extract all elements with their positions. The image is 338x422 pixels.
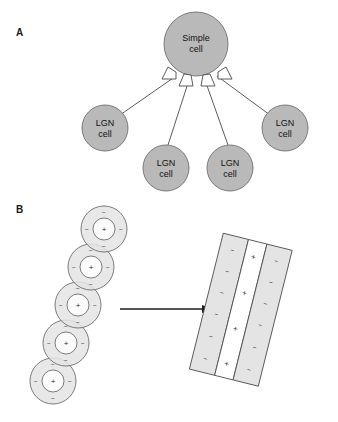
receptive-field-1: + − − − − [81, 206, 127, 252]
rf-4-surround-sign-e: − [81, 340, 85, 347]
rf-3-surround-sign-e: − [93, 302, 97, 309]
panel-a: A Simple cell LGN cell LGN [16, 12, 308, 191]
panel-b: B + − − − − + − − − − [16, 204, 292, 404]
lgn-cell-2-soma [143, 145, 189, 191]
rf-5-center-sign: + [51, 377, 56, 386]
lgn-cell-3-label-line1: LGN [221, 158, 240, 168]
rf-2-surround-sign-s: − [89, 281, 93, 288]
lgn-cell-3-soma [207, 145, 253, 191]
axon-group [120, 76, 270, 145]
axon-lgn-1 [120, 76, 176, 115]
lgn-cell-3-label-line2: cell [223, 169, 237, 179]
rf-1-surround-sign-e: − [119, 226, 123, 233]
rf-5-surround-sign-s: − [51, 395, 55, 402]
rf-3-center-sign: + [76, 301, 81, 310]
transform-arrow [120, 305, 213, 313]
panel-a-label: A [16, 27, 23, 38]
receptive-field-stack: + − − − − + − − − − + − − − [30, 206, 127, 404]
lgn-cell-1-label-line1: LGN [96, 118, 115, 128]
figure-root: A Simple cell LGN cell LGN [0, 0, 338, 422]
rf-3-surround-sign-s: − [76, 319, 80, 326]
lgn-cell-3: LGN cell [207, 145, 253, 191]
rf-4-center-sign: + [64, 339, 69, 348]
synapse-bouton-4 [218, 67, 232, 79]
lgn-cell-4-label-line1: LGN [276, 118, 295, 128]
rf-1-center-sign: + [102, 225, 107, 234]
rf-1-surround-sign-w: − [85, 226, 89, 233]
lgn-cell-4-label-line2: cell [278, 129, 292, 139]
lgn-cell-2: LGN cell [143, 145, 189, 191]
rf-2-surround-sign-e: − [106, 264, 110, 271]
rf-3-surround-sign-w: − [59, 302, 63, 309]
rf-4-surround-sign-s: − [64, 357, 68, 364]
lgn-cell-2-label-line1: LGN [157, 158, 176, 168]
axon-lgn-4 [217, 76, 270, 115]
panel-b-label: B [16, 204, 23, 215]
rf-1-surround-sign-s: − [102, 243, 106, 250]
synapse-bouton-1 [162, 67, 176, 79]
axon-lgn-2 [168, 80, 189, 145]
rf-2-surround-sign-w: − [72, 264, 76, 271]
rf-5-surround-sign-e: − [68, 378, 72, 385]
synapse-bouton-2 [179, 74, 193, 86]
axon-lgn-3 [205, 80, 228, 145]
synapse-bouton-3 [201, 74, 215, 86]
lgn-cell-1-soma [82, 105, 128, 151]
rf-1-surround-sign-n: − [102, 209, 106, 216]
rf-5-surround-sign-w: − [34, 378, 38, 385]
rf-2-center-sign: + [89, 263, 94, 272]
lgn-cell-1: LGN cell [82, 105, 128, 151]
rf-4-surround-sign-w: − [47, 340, 51, 347]
lgn-cell-2-label-line2: cell [159, 169, 173, 179]
simple-cell-label-line1: Simple [182, 33, 210, 43]
lgn-cell-4: LGN cell [262, 105, 308, 151]
simple-cell-receptive-field: − − − − − − + + + + − − − − − − [189, 233, 292, 386]
lgn-cell-4-soma [262, 105, 308, 151]
lgn-cell-1-label-line2: cell [98, 129, 112, 139]
simple-cell-label-line2: cell [189, 44, 203, 54]
